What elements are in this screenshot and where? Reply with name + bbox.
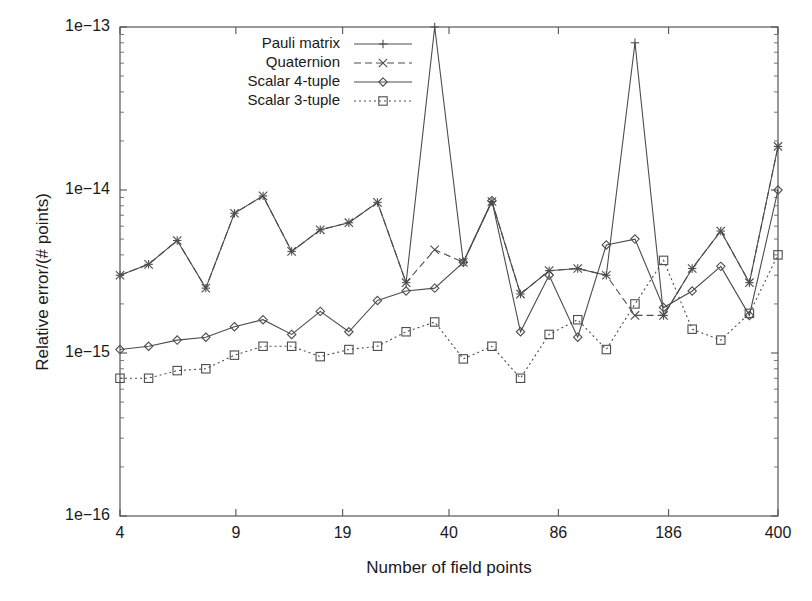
chart-figure: Relative error/(# points) Number of fiel… bbox=[0, 0, 812, 601]
y-tick-label: 1e−14 bbox=[24, 180, 110, 198]
x-axis-label: Number of field points bbox=[120, 558, 778, 578]
legend-entry-label: Scalar 3-tuple bbox=[170, 91, 340, 108]
legend-entry-label: Pauli matrix bbox=[170, 34, 340, 51]
x-tick-label: 4 bbox=[80, 524, 160, 542]
x-tick-label: 86 bbox=[518, 524, 598, 542]
y-tick-label: 1e−16 bbox=[24, 506, 110, 524]
x-tick-label: 186 bbox=[629, 524, 709, 542]
x-tick-label: 19 bbox=[303, 524, 383, 542]
y-tick-label: 1e−13 bbox=[24, 17, 110, 35]
x-tick-label: 40 bbox=[409, 524, 489, 542]
legend-entry-label: Scalar 4-tuple bbox=[170, 72, 340, 89]
legend-entry-label: Quaternion bbox=[170, 53, 340, 70]
x-tick-label: 400 bbox=[738, 524, 812, 542]
x-tick-label: 9 bbox=[196, 524, 276, 542]
y-axis-label: Relative error/(# points) bbox=[33, 117, 53, 447]
y-tick-label: 1e−15 bbox=[24, 343, 110, 361]
chart-plot-area bbox=[0, 0, 812, 601]
